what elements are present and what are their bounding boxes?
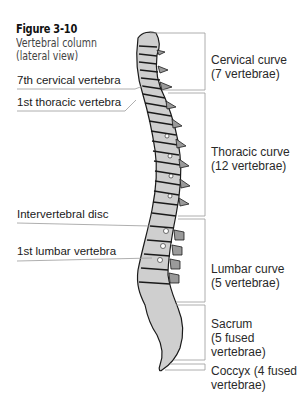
coccyx-count: vertebrae): [211, 378, 297, 392]
label-sacrum: Sacrum (5 fused vertebrae): [211, 317, 266, 359]
lumbar-curve-count: (5 vertebrae): [211, 276, 284, 290]
label-lumbar-curve: Lumbar curve (5 vertebrae): [211, 262, 284, 290]
label-7th-cervical-vertebra: 7th cervical vertebra: [17, 74, 121, 86]
sacrum-name: Sacrum: [211, 317, 266, 331]
sacrum-count-line2: vertebrae): [211, 345, 266, 359]
coccyx-name: Coccyx (4 fused: [211, 364, 297, 378]
label-coccyx: Coccyx (4 fused vertebrae): [211, 364, 297, 392]
left-leader-lines: [17, 86, 152, 261]
label-intervertebral-disc: Intervertebral disc: [17, 208, 108, 220]
spine-body: [137, 32, 183, 371]
thoracic-curve-name: Thoracic curve: [211, 145, 290, 159]
cervical-curve-name: Cervical curve: [211, 53, 287, 67]
label-thoracic-curve: Thoracic curve (12 vertebrae): [211, 145, 290, 173]
sacrum-count-line1: (5 fused: [211, 331, 266, 345]
label-1st-thoracic-vertebra: 1st thoracic vertebra: [17, 96, 121, 108]
cervical-curve-count: (7 vertebrae): [211, 67, 287, 81]
thoracic-curve-count: (12 vertebrae): [211, 159, 290, 173]
lumbar-curve-name: Lumbar curve: [211, 262, 284, 276]
label-cervical-curve: Cervical curve (7 vertebrae): [211, 53, 287, 81]
label-1st-lumbar-vertebra: 1st lumbar vertebra: [17, 245, 116, 257]
